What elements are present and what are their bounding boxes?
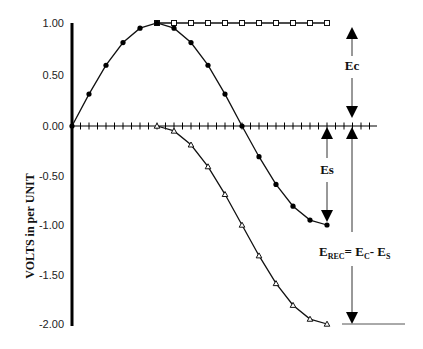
data-point bbox=[171, 26, 176, 31]
series-erec bbox=[154, 123, 330, 326]
y-tick-label: 0.50 bbox=[43, 69, 64, 81]
data-point bbox=[291, 21, 296, 26]
data-point bbox=[239, 123, 244, 128]
data-point bbox=[324, 321, 330, 326]
data-point bbox=[290, 204, 295, 209]
data-point bbox=[189, 21, 194, 26]
y-tick-label: -0.50 bbox=[39, 170, 64, 182]
data-point bbox=[273, 182, 278, 187]
data-point bbox=[137, 26, 142, 31]
data-point bbox=[188, 40, 193, 45]
voltage-chart: 1.000.500.00-0.50-1.00-1.50-2.00 VOLTS i… bbox=[0, 0, 423, 349]
data-point bbox=[307, 217, 312, 222]
y-tick-label: -2.00 bbox=[39, 318, 64, 330]
y-tick-label: 0.00 bbox=[43, 120, 64, 132]
data-point bbox=[324, 222, 329, 227]
data-point bbox=[205, 63, 210, 68]
data-point bbox=[222, 91, 227, 96]
data-point bbox=[274, 21, 279, 26]
data-point bbox=[154, 123, 160, 128]
data-point bbox=[172, 21, 177, 26]
data-point bbox=[223, 21, 228, 26]
data-point bbox=[103, 63, 108, 68]
data-point bbox=[239, 222, 245, 227]
es-arrow: Es bbox=[320, 127, 334, 222]
y-tick-label: 1.00 bbox=[43, 17, 64, 29]
data-point bbox=[154, 20, 159, 25]
y-tick-label: -1.50 bbox=[39, 269, 64, 281]
data-point bbox=[256, 253, 262, 258]
data-point bbox=[69, 123, 74, 128]
data-point bbox=[256, 154, 261, 159]
erec-arrow: EREC= EC- ES bbox=[319, 127, 405, 324]
data-point bbox=[325, 21, 330, 26]
data-point bbox=[206, 21, 211, 26]
series-group bbox=[69, 20, 329, 326]
data-point bbox=[86, 91, 91, 96]
data-point bbox=[240, 21, 245, 26]
series-ec bbox=[155, 21, 330, 26]
y-axis-label: VOLTS in per UNIT bbox=[23, 173, 37, 278]
y-axis-ticks: 1.000.500.00-0.50-1.00-1.50-2.00 bbox=[39, 17, 64, 330]
data-point bbox=[120, 40, 125, 45]
ec-label: Ec bbox=[345, 58, 360, 73]
erec-formula: EREC= EC- ES bbox=[319, 244, 391, 261]
data-point bbox=[308, 21, 313, 26]
data-point bbox=[171, 128, 177, 133]
ec-arrow: Ec bbox=[345, 27, 360, 118]
data-point bbox=[257, 21, 262, 26]
es-label: Es bbox=[320, 162, 334, 177]
y-tick-label: -1.00 bbox=[39, 219, 64, 231]
